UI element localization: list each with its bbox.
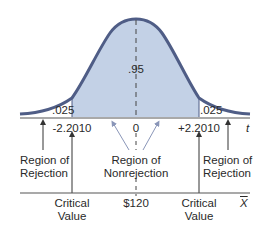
right-critical-value-line2: Value — [185, 210, 214, 223]
right-region-label-line1: Region of — [203, 154, 252, 167]
left-tail-area-label: .025 — [52, 104, 74, 117]
xbar-center-value: $120 — [123, 197, 149, 210]
middle-region-label-line1: Region of — [111, 154, 160, 167]
left-critical-value-line2: Value — [58, 210, 87, 223]
middle-region-label-line2: Nonrejection — [104, 167, 169, 180]
nonrejection-pointer-right — [143, 123, 158, 150]
left-region-label-line2: Rejection — [20, 167, 68, 180]
left-critical-value-line1: Critical — [54, 197, 89, 210]
nonrejection-pointer-left — [113, 123, 129, 150]
right-tail-area-label: .025 — [200, 104, 222, 117]
xbar-axis-label: X — [240, 197, 248, 210]
center-area-label: .95 — [128, 63, 144, 76]
left-region-label-line1: Region of — [20, 154, 69, 167]
center-t-label: 0 — [133, 122, 139, 135]
t-axis-label: t — [246, 122, 249, 135]
left-critical-t-label: -2.2010 — [52, 122, 91, 135]
right-critical-t-label: +2.2010 — [178, 122, 220, 135]
right-region-label-line2: Rejection — [203, 167, 251, 180]
right-critical-value-line1: Critical — [181, 197, 216, 210]
